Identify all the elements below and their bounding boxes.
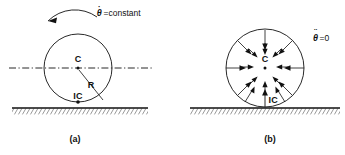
theta-symbol-b: θ (313, 33, 318, 43)
accel-arrow (245, 87, 255, 103)
caption-b: (b) (264, 134, 276, 144)
accel-arrow (278, 81, 292, 95)
panel-a: C IC R · θ =constant (a) (9, 2, 152, 145)
condition-text-a: =constant (104, 8, 142, 18)
condition-label-a: · θ =constant (97, 2, 141, 19)
center-point-c-a (77, 67, 80, 70)
ground-surface-b (190, 108, 340, 114)
caption-a: (a) (70, 134, 81, 144)
contact-arrow-ic-b (262, 89, 268, 107)
ground-hatching-b (190, 108, 340, 114)
accel-arrow (238, 41, 252, 55)
accel-arrow (249, 76, 258, 85)
ground-surface-a (12, 108, 148, 114)
figure-rolling-wheel-kinematics: C IC R · θ =constant (a) C (0, 0, 345, 155)
accel-arrow (226, 65, 246, 71)
panel-b: C (190, 27, 340, 145)
condition-label-b: ¨ θ =0 (313, 27, 329, 44)
condition-text-b: =0 (320, 33, 330, 43)
accel-arrow (238, 81, 252, 95)
accel-arrow (272, 76, 281, 85)
contact-label-ic-b: IC (269, 95, 279, 105)
center-label-c-b: C (262, 54, 269, 64)
rotation-arrowhead-a (48, 18, 57, 24)
accel-arrow (278, 41, 292, 55)
theta-symbol-a: θ (97, 8, 102, 18)
ground-hatching-a (12, 108, 148, 114)
center-point-c-b (264, 67, 267, 70)
contact-label-ic-a: IC (73, 91, 83, 101)
radius-label-r: R (88, 80, 95, 90)
center-label-c-a: C (75, 54, 82, 64)
accel-arrow (284, 65, 304, 71)
